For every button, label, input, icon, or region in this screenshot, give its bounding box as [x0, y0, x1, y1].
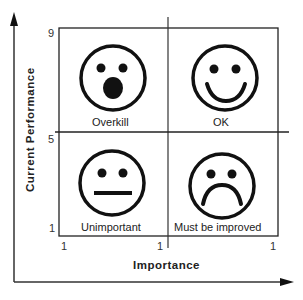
x-tick-1-left: 1 — [61, 240, 67, 252]
neutral-face-icon — [80, 151, 144, 215]
y-tick-1: 1 — [49, 222, 55, 234]
quadrant-grid — [55, 17, 289, 248]
surprised-face-icon — [81, 46, 145, 110]
x-tick-1-right: 1 — [270, 240, 276, 252]
quadrant-label-must-be-improved: Must be improved — [174, 221, 261, 233]
y-tick-9: 9 — [48, 27, 54, 39]
x-tick-1-middle: 1 — [157, 240, 163, 252]
quadrant-label-overkill: Overkill — [92, 116, 129, 128]
quadrant-label-unimportant: Unimportant — [81, 221, 141, 233]
y-axis-arrow — [10, 12, 18, 282]
x-axis-title: Importance — [133, 259, 200, 271]
happy-face-icon — [193, 46, 257, 110]
y-tick-5: 5 — [48, 133, 54, 145]
y-axis-title: Current Performance — [24, 72, 36, 192]
x-axis-arrow — [14, 278, 294, 286]
sad-face-icon — [190, 154, 254, 218]
diagram-canvas — [0, 0, 303, 300]
quadrant-label-ok: OK — [213, 116, 229, 128]
